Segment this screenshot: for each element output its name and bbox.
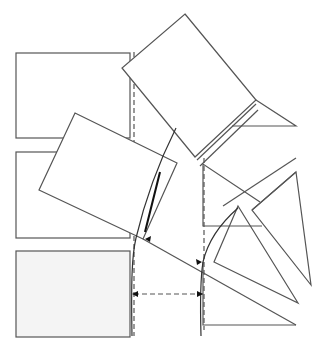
rotated-rect-top	[122, 14, 256, 157]
curve-right	[200, 208, 238, 336]
arrow-marker-3	[132, 291, 138, 297]
triangle-middle	[214, 206, 298, 303]
arrow-marker-2	[196, 259, 202, 265]
triangle-bottom	[203, 262, 296, 325]
triangle-tall	[252, 172, 311, 285]
triangle-right-box	[203, 164, 262, 226]
long-diagonal-line	[143, 239, 296, 325]
rect-bottom	[16, 251, 130, 337]
diagram-canvas	[0, 0, 326, 351]
arrow-marker-4	[197, 291, 203, 297]
